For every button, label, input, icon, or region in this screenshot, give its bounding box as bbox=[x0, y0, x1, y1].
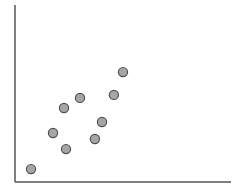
data-point bbox=[109, 90, 118, 99]
data-point bbox=[48, 128, 57, 137]
data-point bbox=[26, 165, 35, 174]
scatter-plot bbox=[0, 0, 240, 189]
data-point bbox=[59, 103, 68, 112]
data-point bbox=[75, 93, 84, 102]
data-point bbox=[97, 117, 106, 126]
data-point bbox=[118, 68, 127, 77]
data-point bbox=[90, 134, 99, 143]
data-point bbox=[61, 145, 70, 154]
data-points bbox=[26, 68, 127, 174]
